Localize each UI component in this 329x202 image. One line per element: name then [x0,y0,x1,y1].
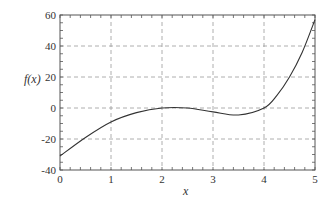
y-tick-label: -40 [41,164,56,176]
y-tick-label: 0 [51,102,57,114]
x-tick-label: 1 [108,173,114,185]
data-curve [60,20,315,156]
y-tick-label: 40 [45,40,57,52]
y-tick-label: -20 [41,133,56,145]
plot-frame [60,15,315,170]
line-chart: 0123456040200-20-40 f(x) x [0,0,329,202]
y-axis-label: f(x) [24,72,41,86]
grid-lines [60,15,315,170]
x-tick-label: 2 [159,173,165,185]
x-axis-label: x [182,184,189,198]
x-tick-label: 5 [312,173,318,185]
x-tick-label: 3 [210,173,216,185]
x-tick-label: 4 [261,173,267,185]
y-tick-label: 60 [45,9,57,21]
x-tick-label: 0 [57,173,63,185]
axis-ticks: 0123456040200-20-40 [41,9,318,185]
y-tick-label: 20 [45,71,57,83]
